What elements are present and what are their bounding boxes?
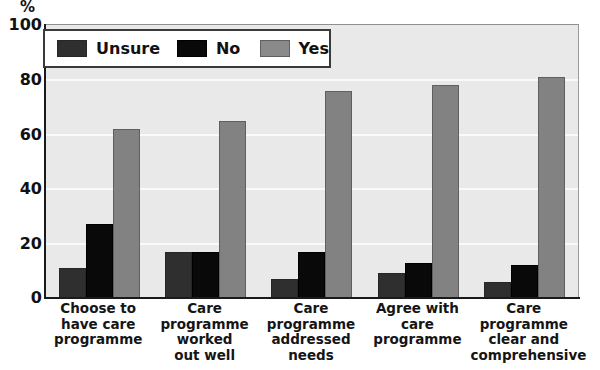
legend-swatch-no-icon bbox=[177, 40, 207, 57]
bar-unsure-4[interactable] bbox=[378, 273, 405, 298]
bar-yes-1[interactable] bbox=[113, 129, 140, 298]
legend-item-unsure: Unsure bbox=[57, 40, 160, 57]
legend-item-yes: Yes bbox=[260, 40, 330, 57]
y-tick-40: 40 bbox=[2, 181, 42, 197]
bar-no-1[interactable] bbox=[86, 224, 113, 298]
bar-yes-3[interactable] bbox=[325, 91, 352, 298]
bar-no-5[interactable] bbox=[511, 265, 538, 298]
bar-yes-4[interactable] bbox=[432, 85, 459, 298]
bar-group-4 bbox=[365, 25, 471, 298]
bar-no-3[interactable] bbox=[298, 252, 325, 298]
y-tick-60: 60 bbox=[2, 127, 42, 143]
x-label-4: Agree with care programme bbox=[364, 301, 470, 348]
x-label-5: Care programme clear and comprehensive bbox=[471, 301, 577, 363]
bar-no-4[interactable] bbox=[405, 263, 432, 298]
y-tick-100: 100 bbox=[2, 17, 42, 33]
legend-swatch-yes-icon bbox=[260, 40, 290, 57]
legend-label-yes: Yes bbox=[299, 41, 330, 57]
legend-item-no: No bbox=[177, 40, 240, 57]
x-axis-category-labels: Choose to have care programmeCare progra… bbox=[45, 301, 579, 370]
y-tick-0: 0 bbox=[2, 290, 42, 306]
legend-label-unsure: Unsure bbox=[96, 41, 160, 57]
y-axis-tick-labels: 100 80 60 40 20 0 bbox=[0, 0, 42, 370]
x-label-1: Choose to have care programme bbox=[45, 301, 151, 348]
grouped-bar-chart: % 100 80 60 40 20 0 Unsure No Yes bbox=[0, 0, 600, 370]
bar-unsure-3[interactable] bbox=[271, 279, 298, 298]
x-axis-line bbox=[44, 297, 580, 299]
y-tick-80: 80 bbox=[2, 72, 42, 88]
bar-group-5 bbox=[472, 25, 578, 298]
legend-swatch-unsure-icon bbox=[57, 40, 87, 57]
bar-yes-5[interactable] bbox=[538, 77, 565, 298]
bar-unsure-5[interactable] bbox=[484, 282, 511, 298]
x-label-2: Care programme worked out well bbox=[151, 301, 257, 363]
bar-unsure-1[interactable] bbox=[59, 268, 86, 298]
y-tick-20: 20 bbox=[2, 236, 42, 252]
bar-yes-2[interactable] bbox=[219, 121, 246, 298]
chart-legend: Unsure No Yes bbox=[43, 29, 331, 68]
bar-no-2[interactable] bbox=[192, 252, 219, 298]
x-label-3: Care programme addressed needs bbox=[258, 301, 364, 363]
bar-unsure-2[interactable] bbox=[165, 252, 192, 298]
legend-label-no: No bbox=[216, 41, 240, 57]
